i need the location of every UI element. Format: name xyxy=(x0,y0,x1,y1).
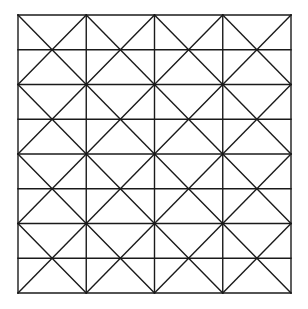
grid-diagram xyxy=(0,0,308,309)
